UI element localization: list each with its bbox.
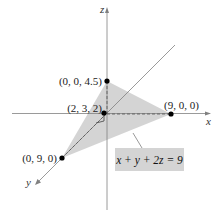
callout-leader bbox=[133, 133, 142, 148]
label-x-intercept: (9, 0, 0) bbox=[164, 99, 199, 112]
y-axis-label: y bbox=[25, 176, 31, 188]
point-y-intercept bbox=[59, 155, 64, 160]
plane-diagram: (0, 0, 4.5) (2, 3, 2) (9, 0, 0) (0, 9, 0… bbox=[0, 0, 223, 222]
z-axis-label: z bbox=[99, 3, 105, 15]
z-axis-arrow-icon bbox=[105, 7, 109, 13]
label-y-intercept: (0, 9, 0) bbox=[22, 152, 57, 165]
plane-equation: x + y + 2z = 9 bbox=[115, 154, 183, 167]
x-axis-label: x bbox=[205, 115, 211, 127]
point-x-intercept bbox=[168, 111, 173, 116]
label-given-point: (2, 3, 2) bbox=[67, 102, 102, 115]
point-given bbox=[101, 110, 106, 115]
point-z-intercept bbox=[104, 78, 109, 83]
plane-triangle bbox=[62, 81, 171, 158]
diagram-canvas: (0, 0, 4.5) (2, 3, 2) (9, 0, 0) (0, 9, 0… bbox=[0, 0, 223, 222]
label-z-intercept: (0, 0, 4.5) bbox=[59, 75, 102, 88]
